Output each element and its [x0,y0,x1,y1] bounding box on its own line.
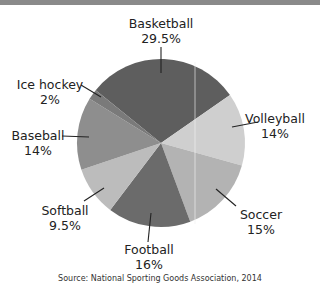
label-football-name: Football [114,242,184,257]
label-softball-pct: 9.5% [30,218,100,233]
label-baseball-name: Baseball [6,128,70,143]
label-volleyball: Volleyball 14% [230,111,320,141]
pie-slices [77,59,245,227]
label-baseball: Baseball 14% [6,128,70,158]
label-soccer-name: Soccer [226,207,296,222]
label-volleyball-name: Volleyball [230,111,320,126]
label-basketball-name: Basketball [118,16,204,31]
label-football: Football 16% [114,242,184,272]
label-soccer: Soccer 15% [226,207,296,237]
label-softball-name: Softball [30,203,100,218]
label-icehockey: Ice hockey 2% [10,77,90,107]
label-football-pct: 16% [114,257,184,272]
label-basketball: Basketball 29.5% [118,16,204,46]
label-baseball-pct: 14% [6,143,70,158]
label-softball: Softball 9.5% [30,203,100,233]
label-icehockey-name: Ice hockey [10,77,90,92]
label-icehockey-pct: 2% [10,92,90,107]
source-note: Source: National Sporting Goods Associat… [0,274,320,283]
label-basketball-pct: 29.5% [118,31,204,46]
label-soccer-pct: 15% [226,222,296,237]
label-volleyball-pct: 14% [230,126,320,141]
